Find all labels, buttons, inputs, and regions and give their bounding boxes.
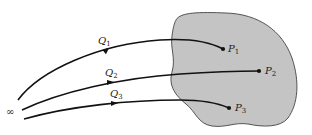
- point-p1: [221, 47, 225, 51]
- point-p3: [227, 106, 231, 110]
- charged-region: [171, 13, 297, 127]
- label-q2: Q2: [105, 67, 118, 80]
- infinity-label: ∞: [6, 106, 14, 117]
- diagram: ∞ Q1 Q2 Q3 P1 P2 P3: [0, 0, 312, 135]
- label-q1: Q1: [98, 35, 111, 48]
- point-p2: [257, 69, 261, 73]
- label-q3: Q3: [110, 88, 123, 101]
